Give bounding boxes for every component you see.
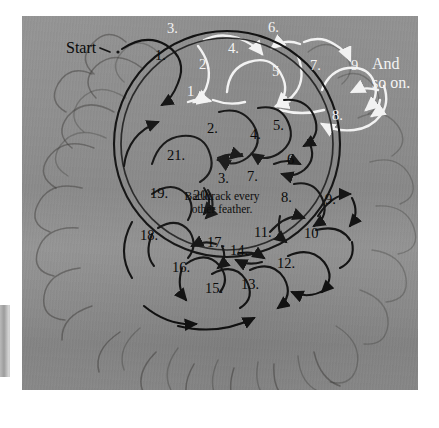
step-number-11: 11. bbox=[254, 225, 272, 240]
step-number-13: 13. bbox=[241, 277, 259, 292]
step-number-5: 5. bbox=[273, 118, 284, 133]
label-and: And bbox=[372, 56, 400, 72]
step-number-1: 1. bbox=[155, 48, 166, 63]
step-number-3: 3. bbox=[218, 171, 229, 186]
step-number-12: 12. bbox=[277, 256, 295, 271]
step-number-18: 18. bbox=[140, 228, 158, 243]
step-number-4: 4. bbox=[250, 127, 261, 142]
backtrack-note-line1: Backtrack every bbox=[176, 190, 268, 203]
step-number-6: 6. bbox=[268, 20, 279, 35]
step-number-10: 10 bbox=[304, 226, 319, 241]
step-number-9: 9. bbox=[351, 58, 362, 73]
step-number-3: 3. bbox=[167, 21, 178, 36]
step-number-7: 7. bbox=[247, 169, 258, 184]
step-number-7: 7. bbox=[310, 58, 321, 73]
backtrack-note: Backtrack every other feather. bbox=[176, 190, 268, 215]
step-number-20: 20. bbox=[193, 188, 211, 203]
step-number-17: 17. bbox=[207, 235, 225, 250]
label-so-on: so on. bbox=[372, 75, 410, 91]
step-number-2: 2. bbox=[207, 121, 218, 136]
step-number-15: 15. bbox=[205, 281, 223, 296]
step-number-5: 5 bbox=[272, 64, 279, 79]
step-number-14: 14. bbox=[230, 243, 248, 258]
step-number-8: 8. bbox=[281, 190, 292, 205]
step-number-8: 8. bbox=[332, 108, 343, 123]
step-number-9: 9. bbox=[325, 192, 336, 207]
step-number-2: 2. bbox=[199, 57, 210, 72]
figure-page: Start And so on. Backtrack every other f… bbox=[0, 0, 439, 428]
backtrack-note-line2: other feather. bbox=[176, 203, 268, 216]
step-number-1: 1 bbox=[187, 84, 194, 99]
step-number-16: 16. bbox=[172, 260, 190, 275]
step-number-21: 21. bbox=[167, 148, 185, 163]
step-number-19: 19. bbox=[150, 186, 168, 201]
step-number-6: 6 bbox=[287, 152, 294, 167]
step-number-4: 4. bbox=[228, 41, 239, 56]
page-edge-bar bbox=[0, 305, 10, 377]
label-start: Start bbox=[66, 40, 96, 56]
